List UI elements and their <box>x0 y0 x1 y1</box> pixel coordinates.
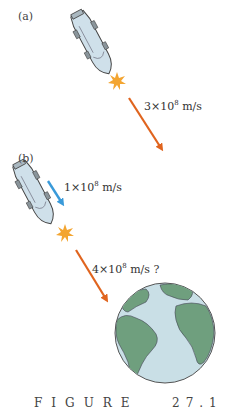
light-speed-b-mantissa: 4 <box>92 263 99 276</box>
speed-a-mantissa: 3 <box>144 100 151 113</box>
speed-a-times: ×10 <box>151 100 174 113</box>
figure-caption-number: 27.1 <box>172 396 223 410</box>
speed-a-unit: m/s <box>179 100 202 113</box>
panel-label-b: (b) <box>18 152 34 165</box>
earth-icon <box>115 283 215 383</box>
figure-artwork <box>0 0 231 417</box>
spaceship-b-icon <box>7 156 61 229</box>
ship-speed-b-mantissa: 1 <box>64 181 71 194</box>
ship-velocity-arrow-b <box>48 181 62 203</box>
spaceship-a-icon <box>65 6 119 79</box>
ship-speed-b-unit: m/s <box>99 181 122 194</box>
flash-b-icon <box>56 224 74 242</box>
speed-label-a: 3×108 m/s <box>144 99 202 113</box>
light-speed-b-unit: m/s ? <box>127 263 160 276</box>
flash-a-icon <box>108 72 126 90</box>
ship-speed-b-times: ×10 <box>71 181 94 194</box>
figure-caption-word: FIGURE <box>34 396 139 410</box>
light-speed-label-b: 4×108 m/s ? <box>92 262 159 276</box>
ship-speed-label-b: 1×108 m/s <box>64 180 122 194</box>
panel-label-a: (a) <box>18 10 33 23</box>
light-speed-b-times: ×10 <box>99 263 122 276</box>
